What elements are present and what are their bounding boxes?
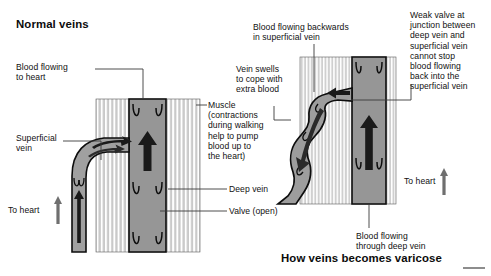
corner-rule-mark bbox=[463, 267, 485, 269]
label-vein-swells: Vein swells to cope with extra blood bbox=[236, 64, 282, 95]
diagram-canvas: Normal veins Blood flowing to heart Supe… bbox=[0, 0, 491, 276]
label-muscle: Muscle (contractions during walking help… bbox=[208, 100, 264, 161]
to-heart-arrow-left bbox=[54, 196, 62, 224]
label-to-heart-left: To heart bbox=[8, 205, 39, 215]
label-superficial-vein: Superficial vein bbox=[16, 133, 57, 153]
label-blood-flowing-to-heart: Blood flowing to heart bbox=[16, 62, 68, 82]
page-title-varicose: How veins becomes varicose bbox=[281, 252, 442, 264]
deep-vein-left bbox=[129, 99, 166, 252]
label-to-heart-right: To heart bbox=[404, 176, 435, 186]
to-heart-arrow-right bbox=[440, 168, 448, 195]
label-valve-open: Valve (open) bbox=[229, 206, 278, 216]
leader-blood-to-heart bbox=[95, 69, 143, 99]
label-blood-flowing-backwards: Blood flowing backwards in superficial v… bbox=[253, 22, 349, 42]
label-weak-valve: Weak valve at junction between deep vein… bbox=[410, 10, 475, 92]
left-vein-illustration bbox=[54, 99, 200, 252]
label-blood-through-deep-vein: Blood flowing through deep vein bbox=[356, 231, 426, 251]
leader-vein-swells bbox=[274, 106, 291, 120]
label-deep-vein: Deep vein bbox=[229, 184, 268, 194]
page-title-normal-veins: Normal veins bbox=[16, 18, 89, 30]
